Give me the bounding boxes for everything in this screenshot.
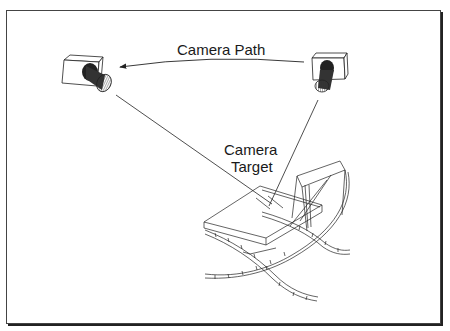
camera-target-label-line2: Target xyxy=(231,159,273,175)
camera-left-icon xyxy=(62,55,114,94)
wireframe-chair xyxy=(204,161,350,301)
camera-target-label-line1: Camera xyxy=(224,142,277,158)
camera-path-label: Camera Path xyxy=(177,42,265,58)
camera-right-icon xyxy=(312,53,348,92)
camera-path-arc xyxy=(120,59,304,67)
